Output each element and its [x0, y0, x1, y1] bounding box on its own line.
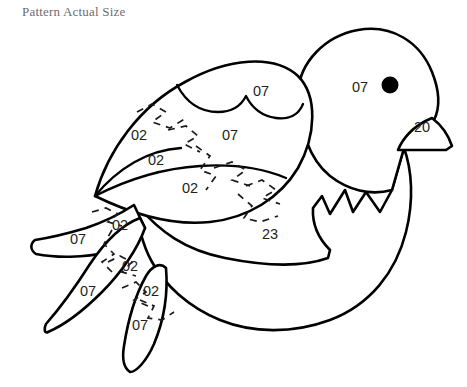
piece-label-tail-low-07: 07: [132, 317, 148, 333]
piece-label-tail-low-02: 02: [143, 283, 159, 299]
piece-label-wing-middle: 07: [222, 127, 238, 143]
piece-label-wing-upper: 07: [253, 83, 269, 99]
piece-label-wing-lower: 02: [182, 180, 198, 196]
piece-label-wing-front-top: 02: [131, 127, 147, 143]
bird-eye-icon: [382, 77, 399, 94]
piece-label-head: 07: [352, 79, 368, 95]
pattern-page: Pattern Actual Size: [0, 0, 467, 387]
bird-pattern-illustration: 07 20 07 07 02 02 02 23 02 07 02 07 02 0…: [0, 0, 467, 387]
piece-label-body: 23: [262, 226, 278, 242]
piece-label-wing-front-mid: 02: [148, 152, 164, 168]
piece-label-beak: 20: [414, 119, 430, 135]
piece-label-tail-top-02: 02: [112, 217, 128, 233]
piece-label-tail-mid-07: 07: [80, 283, 96, 299]
piece-label-tail-top-07: 07: [70, 231, 86, 247]
piece-label-tail-mid-02: 02: [122, 258, 138, 274]
bird-wing-outline: [95, 62, 312, 223]
bird-head-outline: [298, 29, 438, 192]
